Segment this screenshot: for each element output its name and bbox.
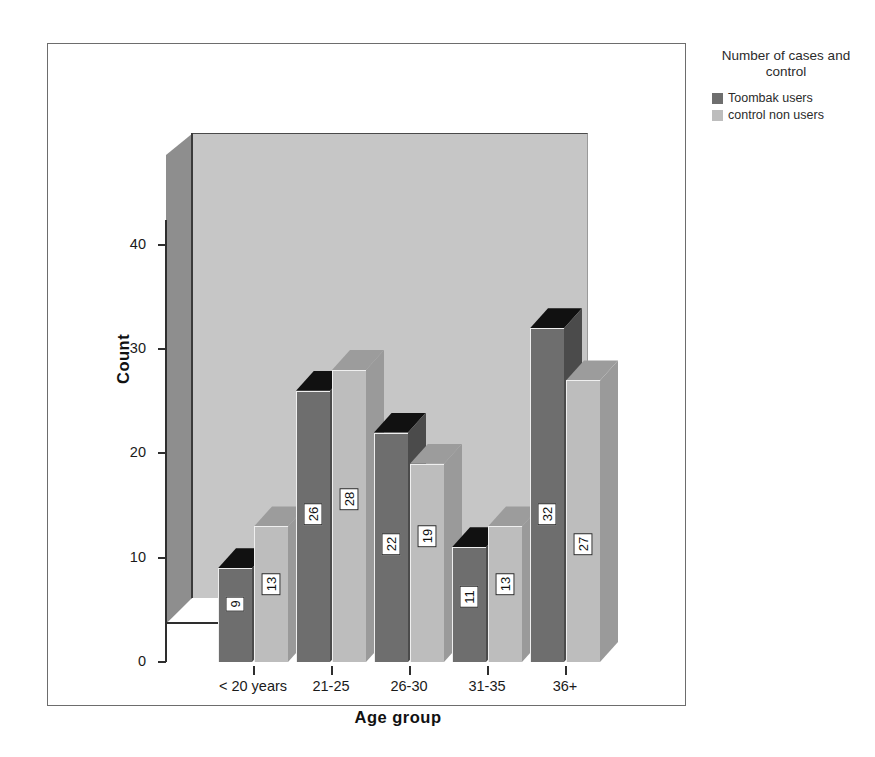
bar-front-face bbox=[218, 568, 252, 662]
y-axis-tick bbox=[158, 557, 166, 559]
legend-item-toombak-users: Toombak users bbox=[712, 91, 872, 105]
plot-left-wall bbox=[166, 133, 193, 624]
x-axis-category-label: 31-35 bbox=[468, 678, 505, 694]
bar-value-label: 27 bbox=[574, 533, 593, 555]
chart-figure-frame: 9132628221911133227 010203040 < 20 years… bbox=[47, 43, 686, 706]
x-axis-tick bbox=[253, 666, 255, 675]
bar-value-label: 13 bbox=[262, 573, 281, 595]
bar-value-label: 11 bbox=[460, 586, 479, 608]
x-axis-tick bbox=[487, 666, 489, 675]
y-axis-tick-label: 10 bbox=[110, 550, 146, 564]
x-axis-category-label: < 20 years bbox=[219, 678, 287, 694]
bar-side-face bbox=[600, 360, 618, 662]
x-axis-tick bbox=[409, 666, 411, 675]
legend-items: Toombak users control non users bbox=[700, 91, 872, 122]
y-axis-tick-label: 0 bbox=[110, 654, 146, 668]
legend: Number of cases and control Toombak user… bbox=[700, 48, 872, 125]
bar-control-non-users-36+ bbox=[566, 360, 600, 662]
bar-value-label: 26 bbox=[304, 503, 323, 525]
bar-control-non-users-26-30 bbox=[410, 444, 444, 662]
x-axis-category-label: 21-25 bbox=[312, 678, 349, 694]
legend-swatch-icon bbox=[712, 93, 723, 104]
y-axis-tick bbox=[158, 452, 166, 454]
legend-item-label: control non users bbox=[728, 108, 824, 122]
y-axis-tick bbox=[158, 661, 166, 663]
y-axis-tick-label: 40 bbox=[110, 237, 146, 251]
bar-front-face bbox=[332, 370, 366, 662]
plot-area: 9132628221911133227 bbox=[166, 133, 588, 621]
y-axis-tick bbox=[158, 244, 166, 246]
bar-front-face bbox=[296, 391, 330, 662]
bar-front-face bbox=[566, 380, 600, 662]
plot-left-wall-edge bbox=[191, 133, 193, 614]
y-axis-tick-label: 20 bbox=[110, 445, 146, 459]
legend-item-control-non-users: control non users bbox=[712, 108, 872, 122]
x-axis-category-label: 26-30 bbox=[390, 678, 427, 694]
bar-value-label: 32 bbox=[538, 503, 557, 525]
y-axis-tick bbox=[158, 348, 166, 350]
bar-front-face bbox=[410, 464, 444, 662]
y-axis-title: Count bbox=[114, 334, 133, 384]
legend-item-label: Toombak users bbox=[728, 91, 813, 105]
legend-title: Number of cases and control bbox=[700, 48, 872, 80]
x-axis-tick bbox=[331, 666, 333, 675]
legend-swatch-icon bbox=[712, 110, 723, 121]
x-axis-category-label: 36+ bbox=[553, 678, 578, 694]
bar-value-label: 22 bbox=[382, 533, 401, 555]
bar-value-label: 19 bbox=[418, 525, 437, 547]
bar-toombak-users-36+ bbox=[530, 308, 564, 662]
x-axis-tick bbox=[565, 666, 567, 675]
bar-value-label: 28 bbox=[340, 488, 359, 510]
x-axis-title: Age group bbox=[48, 708, 748, 727]
bar-value-label: 9 bbox=[226, 596, 245, 611]
bar-front-face bbox=[530, 328, 564, 662]
y-axis-line bbox=[165, 220, 167, 662]
bar-value-label: 13 bbox=[496, 573, 515, 595]
